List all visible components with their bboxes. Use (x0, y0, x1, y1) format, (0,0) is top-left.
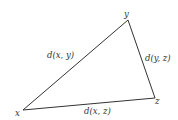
vertex-label-y: y (123, 9, 129, 19)
vertex-label-x: x (15, 108, 20, 118)
edge-label-x-y: d(x, y) (47, 50, 74, 60)
vertex-label-z: z (154, 96, 160, 106)
edge-label-y-z: d(y, z) (145, 53, 171, 63)
diagram-svg: x y z d(x, y) d(y, z) d(x, z) (0, 0, 178, 120)
triangle-diagram: x y z d(x, y) d(y, z) d(x, z) (0, 0, 178, 120)
edge-label-x-z: d(x, z) (84, 106, 111, 116)
edge-x-y (23, 20, 128, 110)
